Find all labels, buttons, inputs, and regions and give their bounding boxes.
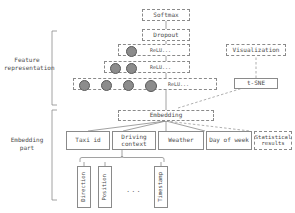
neuron-relu3-3 xyxy=(123,80,134,91)
node-tsne[interactable]: t-SNE xyxy=(234,78,278,89)
label-relu-layer-3: ReLU... xyxy=(168,81,189,87)
feature-ellipsis: ... xyxy=(126,186,142,194)
neuron-relu2-1 xyxy=(110,63,121,74)
neuron-relu3-1 xyxy=(79,80,90,91)
node-softmax[interactable]: Softmax xyxy=(142,9,190,21)
input-weather[interactable]: Weather xyxy=(158,131,204,150)
node-embedding[interactable]: Embedding xyxy=(118,110,214,121)
neuron-relu1-1 xyxy=(126,46,137,57)
neuron-relu2-2 xyxy=(126,63,137,74)
brace-driving-context xyxy=(80,156,164,162)
section-label-embedding-part: Embedding part xyxy=(4,136,50,151)
line-embedding-to-statistical-results xyxy=(166,121,250,131)
line-embedding-to-taxi-id xyxy=(88,121,166,131)
label-relu-layer-2: ReLU... xyxy=(150,64,171,70)
input-taxi-id[interactable]: Taxi id xyxy=(66,131,110,150)
feature-timestamp-label: Timestamp xyxy=(158,172,164,202)
feature-direction-label: Direction xyxy=(81,172,87,202)
feature-position-label: Position xyxy=(102,174,108,201)
line-embedding-to-day-of-week xyxy=(166,121,205,131)
input-driving-context[interactable]: Driving context xyxy=(112,131,156,150)
node-dropout[interactable]: Dropout xyxy=(142,29,190,41)
input-statistical-results[interactable]: Statistical results xyxy=(254,131,292,150)
bracket-embedding-part xyxy=(52,110,57,200)
architecture-diagram: Softmax Dropout ReLU... ReLU... ReLU... … xyxy=(0,0,295,213)
section-label-feature-representation: Feature representation xyxy=(4,56,50,71)
feature-direction[interactable]: Direction xyxy=(77,166,91,208)
feature-position[interactable]: Position xyxy=(98,166,112,208)
input-day-of-week[interactable]: Day of week xyxy=(206,131,252,150)
node-visualization[interactable]: Visualization xyxy=(226,44,286,56)
label-relu-layer-1: ReLU... xyxy=(150,47,171,53)
neuron-relu3-4 xyxy=(145,80,157,92)
line-embedding-to-tsne xyxy=(178,88,243,108)
neuron-relu3-2 xyxy=(101,80,112,91)
feature-timestamp[interactable]: Timestamp xyxy=(154,166,168,208)
line-embedding-to-driving-context xyxy=(123,121,166,131)
